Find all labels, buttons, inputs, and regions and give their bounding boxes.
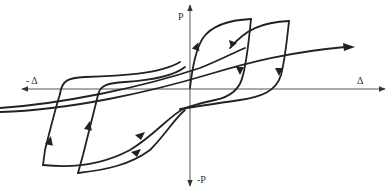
neg-loop-outer-descend (43, 94, 60, 165)
neg-loop-outer-bottom (43, 108, 185, 166)
y-negative-label: -P (197, 174, 206, 185)
neg-loop-inner-descend (78, 95, 98, 173)
arrow-right-tip (343, 43, 355, 51)
x-negative-label: - Δ (26, 75, 38, 86)
loop-2-top (230, 21, 289, 48)
x-positive-label: Δ (357, 75, 364, 86)
axes (22, 5, 385, 186)
arrow-up-neg-inner (84, 120, 94, 130)
y-positive-label: P (178, 11, 184, 22)
arrow-down-left-1 (135, 132, 145, 140)
loop-2-descending (180, 21, 289, 109)
hysteresis-curves (0, 19, 345, 173)
loop-1-descending (185, 19, 251, 108)
curve-arrowheads (45, 40, 355, 157)
neg-loop-inner-top (98, 67, 185, 95)
hysteresis-diagram: P -P Δ - Δ (0, 0, 391, 193)
